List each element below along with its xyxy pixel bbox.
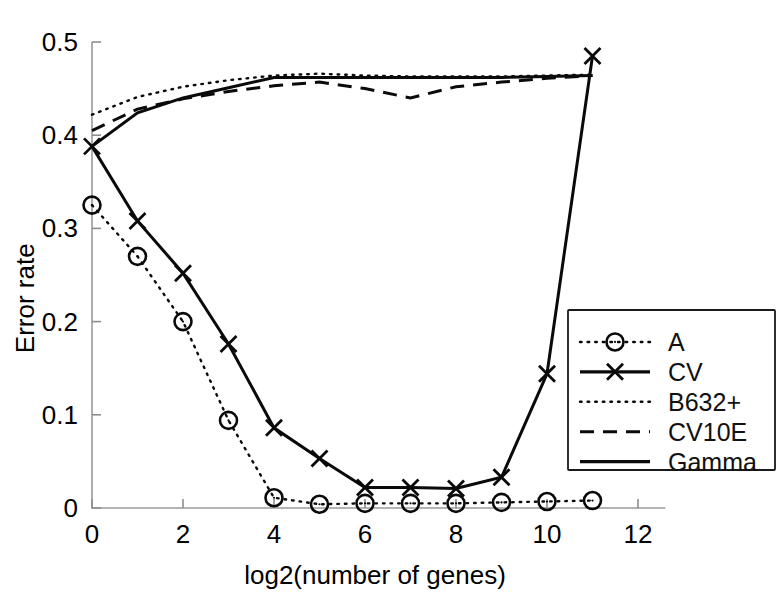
x-tick-label: 0	[85, 519, 99, 549]
marker-a-dot	[409, 502, 411, 504]
marker-a-dot	[364, 502, 366, 504]
marker-a-dot	[318, 503, 320, 505]
x-tick-label: 12	[624, 519, 653, 549]
marker-a-dot	[455, 502, 457, 504]
y-tick-label: 0	[64, 493, 78, 523]
x-axis-title: log2(number of genes)	[244, 560, 506, 590]
legend-label-cv10e: CV10E	[668, 418, 747, 446]
legend: ACVB632+CV10EGamma	[568, 310, 775, 476]
marker-a-dot	[182, 321, 184, 323]
x-tick-label: 10	[533, 519, 562, 549]
marker-a-dot	[227, 419, 229, 421]
y-axis-title: Error rate	[10, 243, 40, 353]
x-tick-label: 6	[358, 519, 372, 549]
x-tick-label: 8	[449, 519, 463, 549]
series-a	[84, 197, 602, 513]
chart-figure: 00.10.20.30.40.5024681012log2(number of …	[0, 0, 782, 605]
data-series	[84, 48, 602, 513]
x-tick-label: 4	[267, 519, 281, 549]
series-line-a	[92, 205, 593, 504]
error-rate-line-chart: 00.10.20.30.40.5024681012log2(number of …	[0, 0, 782, 605]
legend-marker-a-dot	[614, 341, 616, 343]
series-line-cv	[92, 56, 593, 488]
marker-cv	[130, 213, 146, 229]
legend-label-a: A	[668, 328, 685, 356]
y-tick-label: 0.5	[42, 27, 78, 57]
x-tick-label: 2	[176, 519, 190, 549]
y-tick-label: 0.4	[42, 120, 78, 150]
marker-a-dot	[591, 499, 593, 501]
series-line-b632-	[92, 74, 593, 115]
y-tick-label: 0.3	[42, 213, 78, 243]
marker-cv	[312, 451, 328, 467]
marker-a-dot	[273, 497, 275, 499]
legend-label-b632-: B632+	[668, 388, 741, 416]
marker-cv	[221, 336, 237, 352]
marker-a-dot	[546, 500, 548, 502]
y-tick-label: 0.1	[42, 400, 78, 430]
marker-cv	[175, 265, 191, 281]
legend-label-gamma: Gamma	[668, 448, 757, 476]
y-tick-label: 0.2	[42, 307, 78, 337]
marker-a-dot	[136, 255, 138, 257]
marker-a-dot	[91, 204, 93, 206]
series-b632-	[92, 74, 593, 115]
series-cv	[84, 48, 601, 496]
marker-cv	[266, 420, 282, 436]
legend-label-cv: CV	[668, 358, 703, 386]
marker-a-dot	[500, 501, 502, 503]
